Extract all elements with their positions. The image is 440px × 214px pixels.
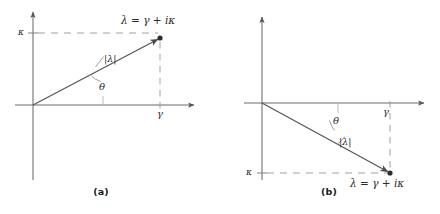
panel-b-modulus-label: |λ| [339,137,351,147]
panel-b-theta-label: θ [333,116,339,126]
panel-a-gamma-label: γ [157,109,163,119]
panel-b-eigenvalue-point [387,170,392,175]
panel-b-gamma-label: γ [383,107,389,117]
panel-a-caption: (a) [93,186,109,197]
panel-a-modulus-leader-line [96,57,104,68]
panel-a-theta-label: θ [99,82,105,92]
panel-a-eigenvalue-point [157,35,162,40]
panel-b [244,17,424,180]
panel-b-kappa-label: κ [246,168,252,177]
panel-a-eigenvalue-vector [33,40,158,106]
panel-a [15,12,194,180]
panel-b-caption: (b) [321,186,337,197]
panel-b-eigenvalue-vector [262,103,388,172]
panel-a-modulus-label: |λ| [104,54,116,64]
panel-b-eigenvalue-equation-label: λ = γ + iκ [350,178,404,189]
figure-root: κ γ θ |λ| λ = γ + iκ κ γ θ |λ| λ = γ + i… [0,0,440,214]
panel-a-eigenvalue-equation-label: λ = γ + iκ [121,15,175,26]
panel-a-kappa-label: κ [18,28,24,37]
